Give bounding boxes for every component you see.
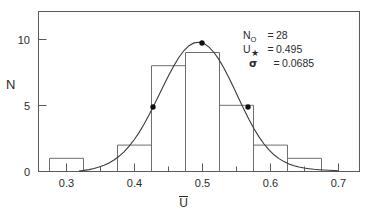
curve-markers <box>150 40 250 109</box>
histogram-figure: 0.3 0.4 0.5 0.6 0.7 0 5 10 N U NO = 28 U… <box>0 0 367 220</box>
histogram-bars <box>50 53 322 172</box>
annotation-symbol: U★ <box>243 42 265 56</box>
y-axis-ticks <box>39 40 47 172</box>
y-axis-title: N <box>6 77 15 92</box>
x-tick-label: 0.4 <box>127 177 142 189</box>
x-axis-title: U <box>0 195 367 210</box>
histogram-bar <box>220 105 254 171</box>
annotation-row: NO = 28 <box>243 28 314 42</box>
x-tick-label: 0.5 <box>195 177 210 189</box>
x-tick-label: 0.7 <box>331 177 346 189</box>
annotation-value: 0.495 <box>276 42 302 56</box>
x-tick-label: 0.6 <box>263 177 278 189</box>
y-tick-label: 10 <box>4 34 30 46</box>
y-tick-label: 0 <box>4 166 30 178</box>
annotation-symbol: σ <box>243 56 271 70</box>
histogram-bar <box>186 53 220 172</box>
annotation-symbol: NO <box>243 28 265 42</box>
x-axis-ticks <box>67 164 339 172</box>
annotation-block: NO = 28 U★ = 0.495 σ = 0.0685 <box>243 28 314 70</box>
histogram-bar <box>152 66 186 172</box>
y-tick-label: 5 <box>4 100 30 112</box>
annotation-equals: = <box>271 56 282 70</box>
x-tick-label: 0.3 <box>59 177 74 189</box>
x-axis-title-text: U <box>179 195 188 210</box>
annotation-equals: = <box>265 28 276 42</box>
annotation-value: 28 <box>276 28 288 42</box>
annotation-row: σ = 0.0685 <box>243 56 314 70</box>
curve-marker-point <box>245 104 250 109</box>
annotation-equals: = <box>265 42 276 56</box>
annotation-value: 0.0685 <box>282 56 314 70</box>
curve-marker-point <box>150 104 155 109</box>
curve-marker-point <box>199 40 204 45</box>
annotation-row: U★ = 0.495 <box>243 42 314 56</box>
